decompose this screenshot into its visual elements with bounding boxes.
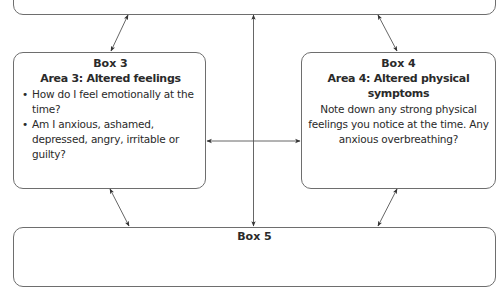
arrow-box3-to-box5 bbox=[110, 189, 129, 226]
box-3-number: Box 3 bbox=[22, 57, 199, 71]
box-5: Box 5 bbox=[13, 227, 496, 287]
box-4-body: Note down any strong physical feelings y… bbox=[308, 102, 489, 147]
box-3-bullet: How do I feel emotionally at the time? bbox=[22, 87, 199, 117]
box-4-number: Box 4 bbox=[308, 57, 489, 71]
box-4-altered-physical-symptoms: Box 4 Area 4: Altered physical symptoms … bbox=[301, 52, 496, 189]
arrow-top-to-box4 bbox=[378, 15, 397, 51]
box-3-title: Area 3: Altered feelings bbox=[22, 71, 199, 86]
box-4-title: Area 4: Altered physical symptoms bbox=[308, 71, 489, 101]
arrow-box4-to-box5 bbox=[378, 189, 397, 226]
arrow-top-to-box3 bbox=[111, 15, 128, 51]
box-5-number: Box 5 bbox=[14, 230, 495, 244]
top-box bbox=[13, 0, 496, 15]
box-3-bullet-list: How do I feel emotionally at the time? A… bbox=[22, 87, 199, 162]
box-3-altered-feelings: Box 3 Area 3: Altered feelings How do I … bbox=[13, 52, 206, 189]
box-3-bullet: Am I anxious, ashamed, depressed, angry,… bbox=[22, 117, 199, 162]
